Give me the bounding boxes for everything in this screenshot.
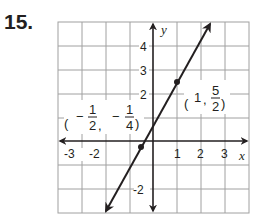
- y-axis-label: y: [159, 22, 167, 37]
- x-tick-label: -2: [89, 147, 100, 161]
- point-label-2: ( 1 , 5 2 ): [184, 80, 230, 114]
- svg-text:,: ,: [203, 92, 207, 107]
- x-tick-label: 3: [221, 147, 228, 161]
- svg-text:4: 4: [126, 118, 133, 133]
- svg-text:1: 1: [194, 90, 201, 105]
- y-tick-label: 3: [140, 64, 147, 78]
- svg-text:): ): [135, 116, 139, 131]
- svg-text:1: 1: [126, 102, 133, 117]
- x-tick-label: 1: [174, 147, 181, 161]
- svg-text:): ): [221, 96, 225, 111]
- point-label-1: ( − 1 2 , − 1 4 ): [64, 100, 144, 134]
- svg-text:−: −: [112, 109, 120, 124]
- svg-text:(: (: [64, 116, 69, 131]
- point-marker: [174, 79, 180, 85]
- svg-text:,: ,: [98, 118, 102, 133]
- x-tick-label: -3: [64, 147, 75, 161]
- svg-text:−: −: [76, 109, 84, 124]
- x-tick-labels: -3 -2 1 2 3: [64, 147, 228, 161]
- y-tick-label: -2: [133, 183, 144, 197]
- y-tick-label: 2: [140, 88, 147, 102]
- svg-text:1: 1: [89, 102, 96, 117]
- x-tick-label: 2: [197, 147, 204, 161]
- x-axis-label: x: [238, 148, 245, 163]
- y-tick-label: 4: [140, 40, 147, 54]
- svg-text:5: 5: [212, 83, 219, 98]
- svg-text:2: 2: [212, 99, 219, 114]
- point-marker: [138, 144, 144, 150]
- svg-text:2: 2: [89, 118, 96, 133]
- coordinate-plane: y x -3 -2 1 2 3 4 3 2 -2 ( − 1 2 , − 1 4…: [0, 0, 261, 219]
- svg-text:(: (: [184, 96, 189, 111]
